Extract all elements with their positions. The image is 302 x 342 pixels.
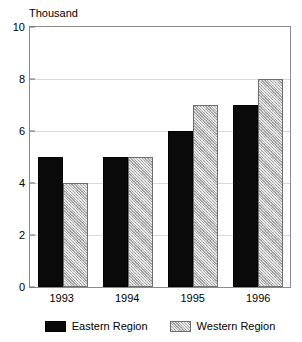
y-axis-tick-label: 10 bbox=[13, 22, 25, 33]
x-axis-tick-label-1994: 1994 bbox=[95, 292, 161, 305]
y-axis-tick-label: 4 bbox=[19, 178, 25, 189]
bar-group-1996 bbox=[225, 27, 290, 287]
legend-label: Eastern Region bbox=[72, 320, 148, 332]
legend-entry-eastern[interactable]: Eastern Region bbox=[45, 320, 148, 332]
y-axis-tick-label: 8 bbox=[19, 74, 25, 85]
bar-group-1995 bbox=[160, 27, 225, 287]
bar-1995-eastern[interactable] bbox=[168, 131, 193, 287]
chart-title bbox=[0, 0, 302, 3]
x-axis-tick-label-1993: 1993 bbox=[29, 292, 95, 305]
bar-1994-western[interactable] bbox=[128, 157, 153, 287]
bar-1996-eastern[interactable] bbox=[233, 105, 258, 287]
legend-entry-western[interactable]: Western Region bbox=[170, 320, 276, 332]
y-axis-unit-label: Thousand bbox=[29, 7, 78, 19]
y-axis-tick-label: 6 bbox=[19, 126, 25, 137]
legend-label: Western Region bbox=[197, 320, 276, 332]
plot-inner: 0246810 bbox=[30, 27, 290, 287]
x-axis-labels: 1993199419951996 bbox=[29, 292, 291, 305]
y-axis-tick-label: 2 bbox=[19, 230, 25, 241]
bar-1993-western[interactable] bbox=[63, 183, 88, 287]
x-axis-tick-label-1995: 1995 bbox=[160, 292, 226, 305]
bar-1996-western[interactable] bbox=[258, 79, 283, 287]
plot-area: 0246810 bbox=[29, 26, 291, 288]
bar-1995-western[interactable] bbox=[193, 105, 218, 287]
bars-layer bbox=[30, 27, 290, 287]
legend-swatch-icon bbox=[170, 321, 191, 332]
bar-1993-eastern[interactable] bbox=[38, 157, 63, 287]
bar-1994-eastern[interactable] bbox=[103, 157, 128, 287]
bar-chart: Thousand 0246810 1993199419951996 Easter… bbox=[0, 0, 302, 342]
bar-group-1994 bbox=[95, 27, 160, 287]
legend-swatch-icon bbox=[45, 321, 66, 332]
bar-group-1993 bbox=[30, 27, 95, 287]
chart-legend: Eastern RegionWestern Region bbox=[29, 320, 291, 332]
x-axis-tick-label-1996: 1996 bbox=[226, 292, 292, 305]
y-axis-tick-label: 0 bbox=[19, 282, 25, 293]
